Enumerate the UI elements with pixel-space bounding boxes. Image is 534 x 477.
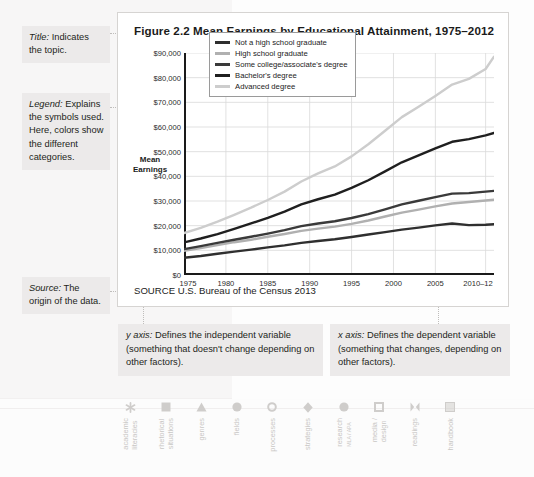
legend-label: Advanced degree — [235, 82, 295, 91]
y-axis-explanation-text: Defines the independent variable (someth… — [126, 330, 314, 367]
x-axis-tick-label: 2005 — [427, 279, 444, 288]
legend-item: Not a high school graduate — [215, 37, 348, 48]
nav-item-label: rhetorical situations — [157, 418, 175, 449]
y-axis-tick-label: $50,000 — [154, 147, 181, 156]
legend-swatch — [215, 74, 230, 77]
legend-item: Some college/associate's degree — [215, 59, 348, 70]
legend-swatch — [215, 85, 230, 88]
nav-item-rhetorical-situations[interactable]: rhetorical situations — [149, 399, 183, 453]
nav-item-label: genres — [197, 418, 206, 441]
annotation-title-term: Title: — [29, 32, 49, 42]
nav-item-media-design[interactable]: media / design — [362, 399, 396, 446]
legend-swatch — [215, 63, 230, 66]
nav-item-handbook[interactable]: handbook — [433, 399, 467, 454]
annotation-source-note: Source: The origin of the data. — [22, 277, 110, 314]
legend-swatch — [215, 41, 230, 44]
legend-label: Some college/associate's degree — [235, 60, 348, 69]
nav-item-label: handbook — [446, 418, 455, 450]
x-axis-tick-label: 1995 — [343, 279, 360, 288]
y-axis-tick-label: $10,000 — [154, 246, 181, 255]
bottom-nav-strip: academic literaciesrhetorical situations… — [0, 399, 534, 477]
annotation-legend-term: Legend: — [29, 99, 63, 109]
y-axis-tick-labels: $90,000$80,000$70,000$60,000$50,000$40,0… — [118, 53, 181, 275]
legend-label: High school graduate — [235, 49, 308, 58]
nav-item-label: academic literacies — [121, 418, 139, 450]
triangle-icon — [184, 399, 218, 415]
y-axis-explanation-box: y axis: Defines the independent variable… — [118, 324, 323, 376]
y-axis-tick-label: $40,000 — [154, 172, 181, 181]
chart-legend: Not a high school graduateHigh school gr… — [209, 32, 356, 97]
hollow-circle-icon — [255, 399, 289, 415]
shaded-square-icon — [433, 399, 467, 415]
y-axis-tick-label: $20,000 — [154, 221, 181, 230]
filled-circle-icon — [327, 399, 361, 415]
nav-item-genres[interactable]: genres — [184, 399, 218, 445]
y-axis-tick-label: $80,000 — [154, 73, 181, 82]
nav-item-readings[interactable]: readings — [398, 399, 432, 450]
legend-swatch — [215, 52, 230, 55]
nav-item-sublabel: MLA / APA — [346, 422, 352, 446]
x-axis-explanation-box: x axis: Defines the dependent variable (… — [330, 324, 510, 376]
y-axis-tick-label: $30,000 — [154, 197, 181, 206]
figure-panel: Figure 2.2 Mean Earnings by Educational … — [117, 12, 509, 307]
legend-item: Bachelor's degree — [215, 70, 348, 81]
annotation-source-term: Source: — [29, 283, 61, 293]
filled-circle-icon — [220, 399, 254, 415]
y-axis-tick-label: $60,000 — [154, 123, 181, 132]
bowtie-icon — [398, 399, 432, 415]
nav-item-fields[interactable]: fields — [220, 399, 254, 439]
nav-item-academic-literacies[interactable]: academic literacies — [113, 399, 147, 454]
legend-item: High school graduate — [215, 48, 348, 59]
filled-square-icon — [149, 399, 183, 415]
legend-label: Bachelor's degree — [235, 71, 297, 80]
x-axis-tick-label: 2010–12 — [463, 279, 493, 288]
figure-source: SOURCE U.S. Bureau of the Census 2013 — [134, 285, 316, 296]
asterisk-icon — [113, 399, 147, 415]
y-axis-tick-label: $90,000 — [154, 49, 181, 58]
x-axis-explanation-term: x axis: — [338, 330, 364, 340]
legend-label: Not a high school graduate — [235, 38, 327, 47]
diamond-icon — [291, 399, 325, 415]
nav-item-strategies[interactable]: strategies — [291, 399, 325, 454]
legend-item: Advanced degree — [215, 81, 348, 92]
nav-item-label: research MLA / APA — [335, 418, 353, 447]
nav-item-label: readings — [410, 418, 419, 446]
nav-item-research[interactable]: research MLA / APA — [327, 399, 361, 451]
x-axis-tick-label: 2000 — [385, 279, 402, 288]
chart-series-line — [184, 191, 494, 249]
y-axis-tick-label: $70,000 — [154, 98, 181, 107]
nav-item-label: strategies — [303, 418, 312, 450]
nav-item-label: fields — [232, 418, 241, 435]
hollow-square-icon — [362, 399, 396, 415]
y-axis-explanation-term: y axis: — [126, 330, 152, 340]
nav-item-label: media / design — [370, 418, 388, 442]
nav-item-processes[interactable]: processes — [255, 399, 289, 456]
annotation-legend-note: Legend: Explains the symbols used. Here,… — [22, 93, 110, 170]
nav-item-label: processes — [268, 418, 277, 452]
page-canvas: Title: Indicates the topic. Legend: Expl… — [0, 0, 534, 477]
annotation-title-note: Title: Indicates the topic. — [22, 26, 110, 63]
